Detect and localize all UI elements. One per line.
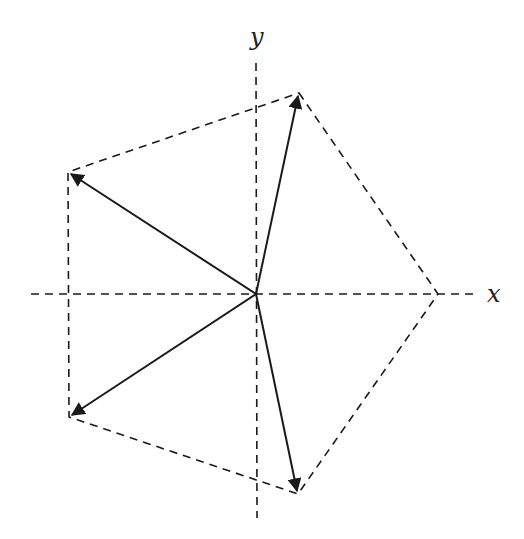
y-axis-label: y	[249, 23, 264, 51]
pentagon-vector-diagram: x y	[0, 0, 524, 539]
vector-bottom	[256, 294, 297, 491]
vector-upper-left	[71, 174, 256, 294]
x-axis-label: x	[487, 280, 501, 308]
vector-lower-left	[72, 294, 256, 415]
vector-top	[256, 96, 298, 294]
